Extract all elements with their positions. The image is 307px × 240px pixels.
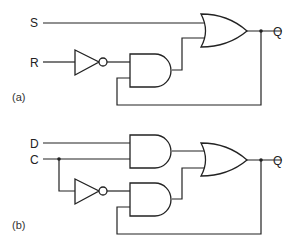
wire-and2-to-or	[172, 168, 205, 199]
panel-b: D C (b) Q	[12, 135, 282, 234]
and-gate-icon	[130, 183, 171, 216]
or-gate-icon	[201, 143, 247, 176]
input-label-s: S	[30, 16, 38, 30]
panel-a: S R (a) Q	[12, 14, 282, 105]
junction-dot-c	[57, 157, 61, 161]
output-label-q-a: Q	[273, 25, 282, 39]
junction-dot-b	[259, 158, 263, 162]
wire-and-to-or	[172, 38, 205, 70]
input-label-r: R	[30, 56, 39, 70]
or-gate-icon	[201, 14, 247, 47]
and-gate-icon	[130, 135, 171, 168]
wire-c-to-not	[59, 159, 75, 191]
latch-circuit-diagram: S R (a) Q D C (b) Q	[0, 0, 307, 240]
and-gate-icon	[130, 54, 171, 87]
caption-b: (b)	[12, 219, 25, 231]
junction-dot-a	[259, 29, 263, 33]
input-label-d: D	[30, 137, 39, 151]
not-gate-icon	[75, 179, 107, 204]
output-label-q-b: Q	[273, 154, 282, 168]
input-label-c: C	[30, 153, 39, 167]
caption-a: (a)	[12, 91, 25, 103]
not-gate-icon	[75, 50, 107, 75]
